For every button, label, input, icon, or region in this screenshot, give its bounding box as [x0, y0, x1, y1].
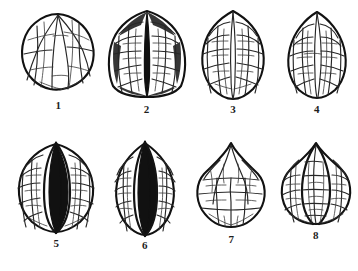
specimen-8-drawing — [274, 138, 358, 228]
specimen-7-label: 7 — [228, 234, 234, 245]
specimen-row-bottom: 5 — [0, 138, 358, 268]
specimen-8-label: 8 — [313, 230, 319, 241]
specimen-6-label: 6 — [142, 240, 148, 251]
specimen-4: 4 — [275, 6, 358, 115]
specimen-5-label: 5 — [53, 238, 59, 249]
specimen-5: 5 — [12, 138, 100, 249]
specimen-7: 7 — [189, 138, 274, 245]
specimen-2-label: 2 — [144, 104, 150, 115]
specimen-3-label: 3 — [230, 104, 236, 115]
specimen-row-top: 1 — [0, 6, 358, 136]
specimen-4-drawing — [279, 6, 355, 102]
specimen-7-drawing — [190, 138, 272, 232]
specimen-3-drawing — [193, 6, 273, 102]
specimen-2-drawing — [103, 6, 191, 102]
specimen-5-drawing — [12, 138, 100, 236]
illustration-plate: 1 — [0, 0, 358, 271]
specimen-2: 2 — [102, 6, 190, 115]
specimen-1-label: 1 — [55, 100, 61, 111]
specimen-3: 3 — [191, 6, 276, 115]
specimen-4-label: 4 — [314, 104, 320, 115]
specimen-6-drawing — [106, 138, 184, 238]
specimen-6: 6 — [100, 138, 188, 251]
specimen-1-drawing — [16, 6, 100, 98]
specimen-8: 8 — [273, 138, 358, 241]
specimen-1: 1 — [14, 6, 102, 111]
